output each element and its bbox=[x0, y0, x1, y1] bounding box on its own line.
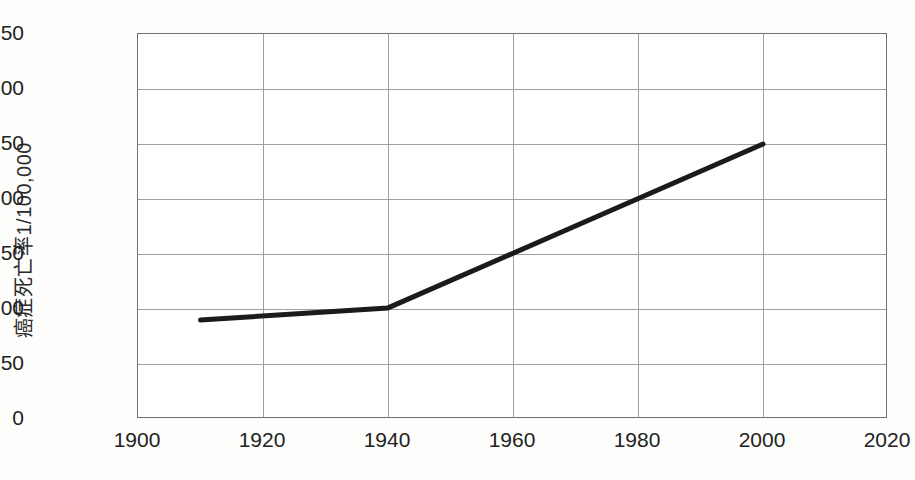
y-tick-label-300: 300 bbox=[0, 76, 24, 100]
x-tick-label-1980: 1980 bbox=[614, 428, 661, 452]
x-tick-label-1940: 1940 bbox=[364, 428, 411, 452]
data-series-cancer-mortality bbox=[201, 144, 764, 320]
x-tick-label-2020: 2020 bbox=[864, 428, 911, 452]
y-tick-label-250: 250 bbox=[0, 131, 24, 155]
y-tick-label-150: 150 bbox=[0, 241, 24, 265]
cancer-mortality-line-chart: 癌症死亡率1/100,000 350 300 250 200 150 100 5… bbox=[0, 0, 915, 480]
data-series-svg bbox=[138, 34, 888, 419]
y-tick-label-50: 50 bbox=[1, 351, 24, 375]
y-tick-label-100: 100 bbox=[0, 296, 24, 320]
x-tick-label-1920: 1920 bbox=[239, 428, 286, 452]
y-tick-label-0: 0 bbox=[12, 406, 24, 430]
x-tick-label-1960: 1960 bbox=[489, 428, 536, 452]
x-tick-label-1900: 1900 bbox=[114, 428, 161, 452]
x-tick-label-2000: 2000 bbox=[739, 428, 786, 452]
y-tick-label-350: 350 bbox=[0, 21, 24, 45]
y-tick-label-200: 200 bbox=[0, 186, 24, 210]
plot-area bbox=[137, 33, 887, 418]
